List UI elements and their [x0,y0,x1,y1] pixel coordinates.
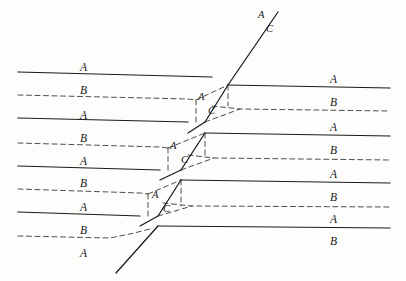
stratum-line-fault-seg-2-lower [160,170,181,180]
stratum-line-right-bed-B-1 [212,106,390,111]
stratum-line-right-bed-B-3 [163,203,390,207]
fault-tip-label-0: A [258,10,264,21]
fault-tip-label-1: C [266,24,273,35]
stratum-line-fault-seg-3-lower [140,216,158,226]
fault-block-label-c-1: C [181,155,188,166]
stratum-line-right-bed-A-1 [228,85,390,88]
fault-block-label-c-0: C [208,106,215,117]
bed-label-right-7: B [330,236,337,248]
stratum-line-left-bed-A-2 [18,118,188,122]
stratum-line-left-bed-A-1 [18,72,212,77]
bed-label-right-1: B [330,97,337,109]
diagram-canvas: ABABABABAABABABABACACACAC [0,0,406,281]
bed-label-right-3: B [330,145,337,157]
bed-label-left-6: A [80,202,87,214]
bed-label-left-8: A [80,248,87,260]
fault-block-label-a-1: A [170,141,176,152]
bed-label-left-3: B [80,133,87,145]
bed-label-left-0: A [80,62,87,74]
fault-block-label-c-2: C [163,204,170,215]
bed-label-right-2: A [330,122,337,134]
bed-label-left-2: A [80,110,87,122]
cross-section-svg [0,0,406,281]
bed-label-right-0: A [330,74,337,86]
stratum-line-left-bed-B-3 [18,189,148,194]
stratum-line-fault-main-lower [116,226,158,273]
stratum-line-left-bed-A-3 [18,166,160,170]
bed-label-left-4: A [80,156,87,168]
bed-label-left-7: B [80,225,87,237]
stratum-line-left-bed-B-2 [18,143,168,148]
bed-label-left-5: B [80,178,87,190]
stratum-line-left-bed-B-1 [18,95,196,100]
stratum-line-fault-seg-1-lower [188,122,205,133]
bed-label-right-6: A [330,214,337,226]
stratum-line-right-bed-A-3 [181,180,390,183]
stratum-line-right-bed-B-2 [188,155,390,160]
fault-block-label-a-2: A [152,190,158,201]
stratum-line-right-bed-A-4 [158,226,390,228]
fault-block-label-a-0: A [198,92,204,103]
stratum-line-right-bed-A-2 [205,133,390,136]
bed-label-right-4: A [330,169,337,181]
bed-label-right-5: B [330,192,337,204]
stratum-line-left-bed-A-4 [18,212,140,216]
bed-label-left-1: B [80,85,87,97]
